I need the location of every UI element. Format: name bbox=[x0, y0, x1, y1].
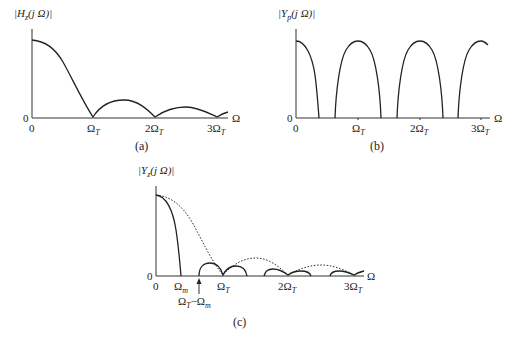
panel-b-lobe-2 bbox=[397, 41, 443, 118]
svg-text:3ΩT: 3ΩT bbox=[344, 280, 363, 295]
panel-b-x-ticks: 0 ΩT 2ΩT 3ΩT bbox=[293, 122, 490, 137]
panel-c: |Yz(j Ω)| 0 Ω 0 Ωm ΩT 2ΩT 3ΩT ΩT−Ωm (c) bbox=[138, 164, 375, 329]
svg-text:Ωm: Ωm bbox=[174, 280, 188, 295]
panel-a-caption: (a) bbox=[135, 139, 148, 153]
svg-text:ΩT: ΩT bbox=[352, 122, 365, 137]
svg-text:3ΩT: 3ΩT bbox=[207, 122, 226, 137]
svg-text:0: 0 bbox=[29, 122, 35, 134]
panel-b-lobe-0 bbox=[296, 41, 319, 118]
panel-b-lobe-1 bbox=[335, 41, 381, 118]
svg-text:0: 0 bbox=[153, 280, 159, 292]
panel-b: |Yp(j Ω)| 0 Ω 0 ΩT 2ΩT 3ΩT (b) bbox=[278, 7, 502, 153]
svg-text:2ΩT: 2ΩT bbox=[410, 122, 429, 137]
panel-c-y-label: |Yz(j Ω)| bbox=[138, 164, 174, 179]
panel-c-sinc-envelope bbox=[156, 195, 364, 275]
panel-b-x-axis-label: Ω bbox=[494, 112, 502, 124]
svg-text:3ΩT: 3ΩT bbox=[471, 122, 490, 137]
panel-c-replica-3 bbox=[330, 271, 364, 276]
panel-a-x-ticks: 0 ΩT 2ΩT 3ΩT bbox=[29, 122, 226, 137]
svg-text:0: 0 bbox=[293, 122, 299, 134]
svg-text:2ΩT: 2ΩT bbox=[278, 280, 297, 295]
panel-b-caption: (b) bbox=[370, 139, 384, 153]
panel-c-baseband-lobe bbox=[156, 195, 181, 276]
panel-c-replica-2 bbox=[264, 269, 311, 276]
panel-c-replica-1 bbox=[199, 263, 247, 276]
panel-c-caption: (c) bbox=[233, 315, 246, 329]
panel-a-y-label: |Hz(j Ω)| bbox=[14, 7, 52, 22]
arrow-head-icon bbox=[197, 278, 202, 284]
panel-a-curve bbox=[32, 40, 228, 117]
panel-a: |Hz(j Ω)| 0 Ω 0 ΩT 2ΩT 3ΩT (a) bbox=[14, 7, 240, 153]
panel-a-x-axis-label: Ω bbox=[232, 112, 240, 124]
panel-b-lobe-3 bbox=[458, 41, 488, 118]
annotation-label: ΩT−Ωm bbox=[178, 295, 211, 310]
panel-b-y-label: |Yp(j Ω)| bbox=[278, 7, 315, 22]
svg-text:2ΩT: 2ΩT bbox=[145, 122, 164, 137]
svg-text:ΩT: ΩT bbox=[87, 122, 100, 137]
panel-c-x-ticks: 0 Ωm ΩT 2ΩT 3ΩT bbox=[153, 280, 363, 295]
sampling-spectra-figure: |Hz(j Ω)| 0 Ω 0 ΩT 2ΩT 3ΩT (a) |Yp(j Ω)|… bbox=[0, 0, 511, 340]
svg-text:ΩT: ΩT bbox=[217, 280, 230, 295]
panel-c-x-axis-label: Ω bbox=[367, 270, 375, 282]
